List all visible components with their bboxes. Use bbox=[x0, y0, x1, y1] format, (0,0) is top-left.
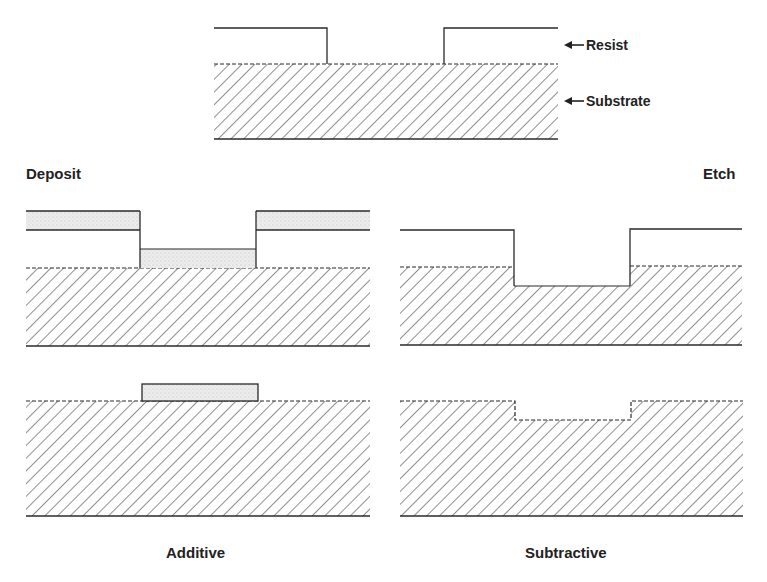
etch-heading: Etch bbox=[703, 165, 736, 182]
resist-label: Resist bbox=[586, 37, 628, 53]
substrate-callout: Substrate bbox=[564, 93, 651, 109]
deposit-layer-right bbox=[256, 211, 370, 230]
arrow-left-icon bbox=[564, 39, 584, 51]
additive-result bbox=[26, 384, 370, 516]
deposit-heading: Deposit bbox=[26, 165, 81, 182]
arrow-left-icon bbox=[564, 95, 584, 107]
substrate-label: Substrate bbox=[586, 93, 651, 109]
deposit-layer-left bbox=[26, 211, 140, 230]
deposited-pattern bbox=[142, 384, 258, 401]
deposit-stack bbox=[26, 211, 370, 346]
resist-top bbox=[214, 28, 327, 64]
deposit-layer-opening bbox=[140, 249, 256, 268]
initial-stack bbox=[214, 28, 558, 139]
subtractive-label: Subtractive bbox=[525, 544, 607, 561]
substrate-top bbox=[214, 64, 558, 139]
subtractive-result bbox=[400, 401, 743, 516]
etch-stack bbox=[400, 229, 742, 345]
lithography-diagram bbox=[0, 0, 767, 582]
additive-label: Additive bbox=[166, 544, 225, 561]
resist-callout: Resist bbox=[564, 37, 628, 53]
